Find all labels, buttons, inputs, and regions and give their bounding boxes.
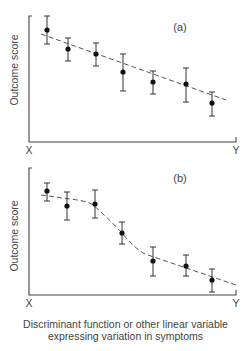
panel-b-y-axis-label: Outcome score xyxy=(8,200,20,271)
panel-b-label: (b) xyxy=(173,172,186,184)
panel-a-label: (a) xyxy=(173,21,186,33)
caption-line-2: expressing variation in symptoms xyxy=(0,330,251,342)
data-point xyxy=(64,192,70,220)
data-point xyxy=(119,222,125,244)
data-point xyxy=(92,190,98,218)
data-point xyxy=(150,247,156,276)
data-point xyxy=(183,255,189,276)
x-axis-caption: Discriminant function or other linear va… xyxy=(0,318,251,342)
panel-b-axes xyxy=(29,168,236,295)
caption-line-1: Discriminant function or other linear va… xyxy=(0,318,251,330)
data-point xyxy=(209,92,215,116)
figure: (a) Outcome score X Y (b) Outcome score … xyxy=(0,0,251,351)
data-point xyxy=(44,16,50,44)
panel-b-x-tick-left: X xyxy=(25,297,32,309)
panel-a-data-points xyxy=(44,16,215,116)
data-point xyxy=(209,269,215,292)
data-point xyxy=(120,54,126,91)
panel-b-x-tick-right: Y xyxy=(232,297,239,309)
panel-a-x-tick-left: X xyxy=(25,144,32,156)
panel-a-axes xyxy=(29,16,236,142)
data-point xyxy=(44,183,50,201)
data-point xyxy=(65,38,71,61)
panel-b-fit-curve xyxy=(41,195,236,285)
panel-a-y-axis-label: Outcome score xyxy=(8,34,20,105)
panel-a: (a) Outcome score X Y xyxy=(8,16,240,156)
panel-a-x-tick-right: Y xyxy=(232,144,239,156)
data-point xyxy=(93,43,99,66)
panel-b: (b) Outcome score X Y xyxy=(8,168,240,309)
data-point xyxy=(183,68,189,102)
panel-a-fit-line xyxy=(41,34,226,100)
